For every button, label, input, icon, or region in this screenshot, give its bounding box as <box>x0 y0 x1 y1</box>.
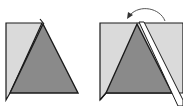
step-1-figure <box>6 19 78 100</box>
step-2-figure <box>100 9 183 106</box>
folding-diagram <box>0 0 183 106</box>
curved-fold-arrow-icon <box>130 9 165 21</box>
